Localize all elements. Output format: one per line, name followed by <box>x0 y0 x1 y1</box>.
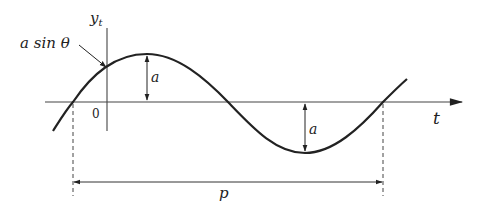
period-label: p <box>219 184 229 202</box>
phase-callout-label: a sin θ <box>20 34 70 52</box>
origin-label: 0 <box>92 107 100 121</box>
y-axis-label: yt <box>89 9 103 28</box>
phase-callout-leader <box>79 45 106 67</box>
amplitude-label-top: a <box>151 69 159 85</box>
sine-curve <box>53 54 407 153</box>
t-axis-label: t <box>433 108 440 128</box>
amplitude-label-bottom: a <box>309 121 317 137</box>
sine-wave-diagram: yt a sin θ 0 a a t p <box>0 0 478 221</box>
